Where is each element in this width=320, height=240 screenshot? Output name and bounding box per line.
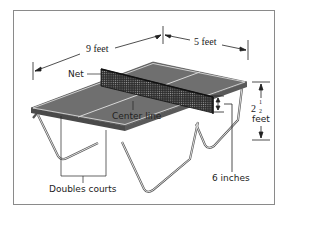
label-doubles-courts: Doubles courts	[49, 185, 117, 194]
label-6-inches: 6 inches	[212, 174, 250, 183]
label-height-whole: 2	[251, 104, 256, 114]
dimension-6-inches	[211, 96, 232, 172]
label-height-unit: feet	[252, 115, 270, 124]
label-9-feet: 9 feet	[86, 44, 109, 54]
label-5-feet: 5 feet	[194, 37, 217, 47]
label-height-num: 1	[259, 99, 262, 105]
label-center-line: Center line	[112, 112, 161, 121]
label-net: Net	[68, 70, 84, 79]
